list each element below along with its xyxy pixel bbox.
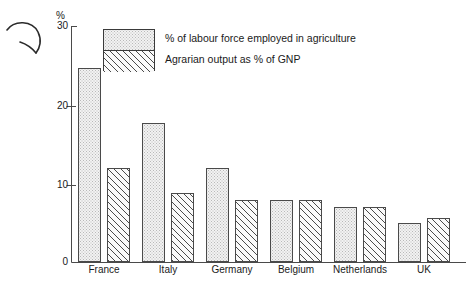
y-tick-10: 10 xyxy=(46,180,68,190)
y-tick-30: 30 xyxy=(46,21,68,31)
legend-swatch-series-2 xyxy=(104,50,154,72)
bar-uk-series-2 xyxy=(427,218,450,263)
y-tick-0: 0 xyxy=(46,257,68,267)
x-tick-label-belgium: Belgium xyxy=(278,264,314,275)
x-tick-label-france: France xyxy=(88,264,119,275)
chart-legend: % of labour force employed in agricultur… xyxy=(103,29,353,71)
y-tick-20: 20 xyxy=(46,101,68,111)
bar-germany-series-2 xyxy=(235,200,258,263)
legend-swatch-series-1 xyxy=(104,30,154,50)
bar-italy-series-1 xyxy=(142,123,165,262)
x-tick-label-germany: Germany xyxy=(211,264,252,275)
x-tick-label-uk: UK xyxy=(417,264,431,275)
bar-belgium-series-2 xyxy=(299,200,322,263)
x-tick-label-italy: Italy xyxy=(159,264,177,275)
bar-france-series-1 xyxy=(78,68,101,262)
bar-chart-figure: % 30 20 10 0 % of labour force employed … xyxy=(0,0,476,285)
bar-uk-series-1 xyxy=(398,223,421,262)
bar-italy-series-2 xyxy=(171,193,194,262)
bar-germany-series-1 xyxy=(206,168,229,262)
legend-label-series-2: Agrarian output as % of GNP xyxy=(165,54,300,65)
legend-label-series-1: % of labour force employed in agricultur… xyxy=(165,33,356,44)
bar-belgium-series-1 xyxy=(270,200,293,263)
bar-france-series-2 xyxy=(107,168,130,262)
x-tick-label-netherlands: Netherlands xyxy=(333,264,387,275)
y-axis-tick-labels: 30 20 10 0 xyxy=(46,0,68,285)
bar-netherlands-series-1 xyxy=(334,207,357,262)
legend-swatch-box xyxy=(103,29,155,71)
bar-netherlands-series-2 xyxy=(363,207,386,262)
